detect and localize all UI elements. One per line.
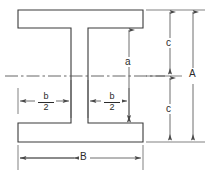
half-width-right-numerator: b — [104, 92, 120, 101]
label-overall-width-B: B — [79, 152, 88, 162]
half-width-left-numerator: b — [38, 92, 54, 101]
half-width-right-denominator: 2 — [104, 103, 120, 112]
label-half-height-bottom-c: c — [165, 104, 172, 114]
half-width-left-denominator: 2 — [38, 103, 54, 112]
label-half-height-top-c: c — [165, 38, 172, 48]
label-overall-height-A: A — [188, 69, 197, 79]
label-half-width-right-b-over-2: b 2 — [102, 92, 122, 113]
ibeam-dimension-diagram: a c c A B b 2 b 2 — [0, 0, 220, 176]
label-web-height-a: a — [124, 57, 132, 67]
technical-drawing-canvas — [0, 0, 220, 176]
label-half-width-left-b-over-2: b 2 — [36, 92, 56, 113]
